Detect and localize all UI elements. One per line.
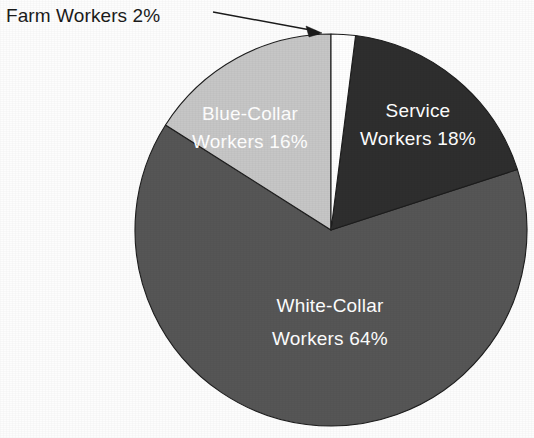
farm-callout-label: Farm Workers 2% (6, 5, 160, 26)
slice-label-blue-collar-line2: Workers 16% (192, 131, 308, 152)
slice-label-service-line2: Workers 18% (360, 128, 476, 149)
slice-label-service-line1: Service (386, 100, 451, 121)
pie-chart-figure: Service Workers 18% Blue-Collar Workers … (0, 0, 534, 438)
slice-label-blue-collar-line1: Blue-Collar (202, 103, 299, 124)
slice-label-white-collar-line1: White-Collar (277, 295, 384, 316)
slice-label-white-collar-line2: Workers 64% (272, 328, 388, 349)
farm-callout-leader-line (213, 12, 316, 31)
pie-chart-canvas: Service Workers 18% Blue-Collar Workers … (0, 0, 534, 438)
